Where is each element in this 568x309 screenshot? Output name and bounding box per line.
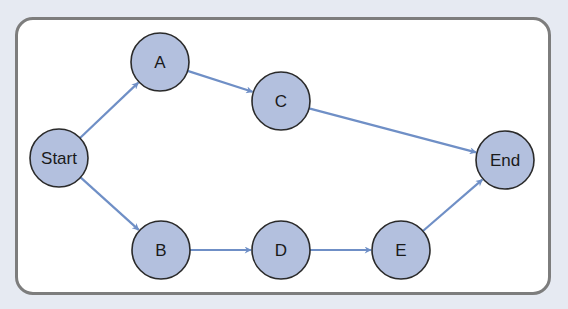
node-c: C bbox=[252, 72, 310, 130]
arrow-icon bbox=[188, 71, 253, 92]
node-start: Start bbox=[30, 129, 88, 187]
node-end: End bbox=[476, 131, 534, 189]
node-label: A bbox=[154, 53, 166, 72]
node-e: E bbox=[372, 221, 430, 279]
arrow-icon bbox=[309, 108, 476, 152]
edge-e-to-end bbox=[423, 180, 482, 231]
node-label: D bbox=[275, 241, 287, 260]
edge-c-to-end bbox=[309, 108, 476, 152]
edge-start-to-b bbox=[81, 177, 139, 229]
node-d: D bbox=[252, 221, 310, 279]
edge-a-to-c bbox=[188, 71, 253, 92]
node-label: B bbox=[155, 241, 166, 260]
arrow-icon bbox=[80, 83, 138, 138]
arrow-icon bbox=[423, 180, 482, 231]
node-label: End bbox=[490, 151, 520, 170]
edge-start-to-a bbox=[80, 83, 138, 138]
node-b: B bbox=[132, 221, 190, 279]
flow-graph: StartACEndBDE bbox=[0, 0, 568, 309]
node-a: A bbox=[131, 33, 189, 91]
node-label: C bbox=[275, 92, 287, 111]
arrow-icon bbox=[81, 177, 139, 229]
node-label: Start bbox=[41, 149, 77, 168]
node-label: E bbox=[395, 241, 406, 260]
